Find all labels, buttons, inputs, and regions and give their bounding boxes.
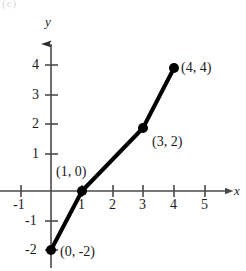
y-tick-label-3: 3 xyxy=(32,88,39,102)
y-axis-label: y xyxy=(45,15,51,28)
point-label-1-0: (1, 0) xyxy=(56,165,86,179)
function-graph-line xyxy=(51,68,174,250)
y-tick-label-1: 1 xyxy=(32,147,39,161)
x-tick-label-2: 2 xyxy=(109,198,116,212)
y-tick-label-neg1: -1 xyxy=(25,214,37,228)
x-tick-label-5: 5 xyxy=(201,198,208,212)
data-point-4-4 xyxy=(169,63,179,73)
point-label-0-neg2: (0, -2) xyxy=(60,245,95,259)
x-tick-label-neg1: -1 xyxy=(13,198,25,212)
y-tick-label-neg2: -2 xyxy=(25,243,37,257)
x-tick-label-1: 1 xyxy=(78,198,85,212)
x-tick-label-4: 4 xyxy=(170,198,177,212)
data-point-0-neg2 xyxy=(46,245,56,255)
y-tick-label-2: 2 xyxy=(32,117,39,131)
data-point-1-0 xyxy=(77,186,87,196)
data-point-3-2 xyxy=(138,123,148,133)
graph-figure: (c) xyxy=(0,0,246,271)
point-label-4-4: (4, 4) xyxy=(181,61,211,75)
x-axis-label: x xyxy=(234,184,240,197)
x-tick-label-3: 3 xyxy=(139,198,146,212)
y-tick-label-4: 4 xyxy=(32,58,39,72)
point-label-3-2: (3, 2) xyxy=(152,135,182,149)
coordinate-plane-svg xyxy=(0,0,246,271)
